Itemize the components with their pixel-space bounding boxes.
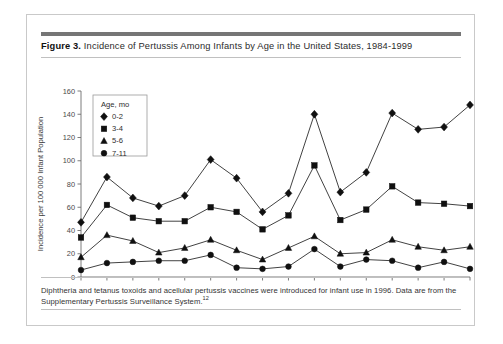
legend-marker-7-11 bbox=[101, 150, 107, 156]
note-rule-top bbox=[41, 277, 461, 278]
data-point bbox=[312, 246, 318, 252]
data-point bbox=[286, 264, 292, 270]
legend-label-0-2: 0-2 bbox=[112, 112, 123, 121]
y-tick-label: 20 bbox=[67, 249, 75, 258]
data-point bbox=[441, 123, 448, 131]
data-point bbox=[156, 218, 162, 224]
data-point bbox=[467, 101, 474, 109]
data-point bbox=[467, 203, 473, 209]
y-tick-label: 140 bbox=[63, 110, 75, 119]
data-point bbox=[363, 168, 370, 176]
figure-title: Figure 3. Incidence of Pertussis Among I… bbox=[41, 41, 465, 51]
data-point bbox=[156, 258, 162, 264]
legend-title: Age, mo bbox=[101, 100, 129, 109]
data-point bbox=[104, 232, 110, 238]
legend-label-3-4: 3-4 bbox=[112, 124, 123, 133]
data-point bbox=[415, 125, 422, 133]
data-point bbox=[364, 207, 370, 213]
data-point bbox=[363, 257, 369, 263]
legend-label-5-6: 5-6 bbox=[112, 136, 123, 145]
data-point bbox=[182, 218, 188, 224]
data-point bbox=[155, 202, 162, 210]
data-point bbox=[78, 267, 84, 273]
data-point bbox=[441, 259, 447, 265]
data-point bbox=[129, 194, 136, 202]
data-point bbox=[467, 266, 473, 272]
data-point bbox=[389, 109, 396, 117]
data-point bbox=[208, 252, 214, 258]
legend-marker-3-4 bbox=[101, 126, 107, 132]
data-point bbox=[312, 163, 318, 169]
data-point bbox=[208, 204, 214, 210]
data-point bbox=[311, 233, 317, 239]
data-point bbox=[337, 188, 344, 196]
data-point bbox=[467, 243, 473, 249]
data-point bbox=[441, 201, 447, 207]
data-point bbox=[285, 244, 291, 250]
y-tick-label: 40 bbox=[67, 226, 75, 235]
y-tick-label: 60 bbox=[67, 203, 75, 212]
data-point bbox=[389, 184, 395, 190]
data-point bbox=[389, 236, 395, 242]
figure-card: Figure 3. Incidence of Pertussis Among I… bbox=[26, 14, 475, 326]
series-3-4 bbox=[78, 163, 473, 241]
data-point bbox=[311, 110, 318, 118]
data-point bbox=[78, 235, 84, 241]
y-tick-label: 80 bbox=[67, 180, 75, 189]
data-point bbox=[338, 217, 344, 223]
data-point bbox=[103, 173, 110, 181]
data-point bbox=[234, 209, 240, 215]
data-point bbox=[389, 258, 395, 264]
chart-plot-region: 020406080100120140160Incidence per 100 0… bbox=[27, 63, 474, 285]
y-axis-title: Incidence per 100 000 Infant Population bbox=[36, 117, 45, 251]
data-point bbox=[104, 202, 110, 208]
data-point bbox=[285, 189, 292, 197]
data-point bbox=[286, 213, 292, 219]
series-5-6 bbox=[78, 232, 473, 262]
figure-label: Figure 3. bbox=[41, 41, 81, 51]
data-point bbox=[260, 227, 266, 233]
data-point bbox=[337, 264, 343, 270]
series-7-11 bbox=[78, 246, 473, 273]
title-rule-bottom bbox=[41, 57, 461, 58]
data-point bbox=[207, 236, 213, 242]
figure-note-line1: Diphtheria and tetanus toxoids and acell… bbox=[41, 286, 443, 295]
data-point bbox=[78, 218, 85, 226]
data-point bbox=[234, 265, 240, 271]
data-point bbox=[415, 265, 421, 271]
legend-label-7-11: 7-11 bbox=[112, 149, 127, 158]
series-line bbox=[81, 249, 470, 270]
data-point bbox=[78, 254, 84, 260]
data-point bbox=[260, 266, 266, 272]
title-rule-top bbox=[41, 32, 461, 36]
series-line bbox=[81, 165, 470, 237]
data-point bbox=[104, 260, 110, 266]
data-point bbox=[182, 258, 188, 264]
data-point bbox=[130, 259, 136, 265]
y-tick-label: 120 bbox=[63, 133, 75, 142]
x-tick-label: 1999 bbox=[462, 283, 474, 285]
figure-note: Diphtheria and tetanus toxoids and acell… bbox=[41, 285, 463, 307]
data-point bbox=[415, 200, 421, 206]
series-line bbox=[81, 235, 470, 259]
data-point bbox=[363, 249, 369, 255]
pertussis-incidence-line-chart: 020406080100120140160Incidence per 100 0… bbox=[27, 63, 474, 285]
data-point bbox=[130, 215, 136, 221]
figure-note-reference: 12 bbox=[203, 296, 209, 302]
y-tick-label: 160 bbox=[63, 87, 75, 96]
note-rule-bottom bbox=[41, 309, 461, 310]
figure-title-body: Incidence of Pertussis Among Infants by … bbox=[84, 41, 413, 51]
y-tick-label: 100 bbox=[63, 156, 75, 165]
